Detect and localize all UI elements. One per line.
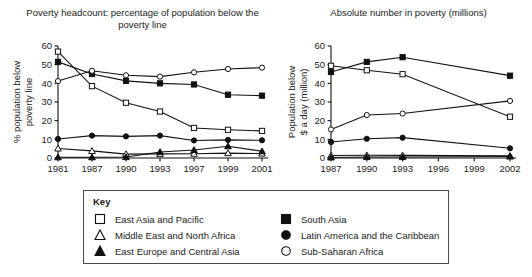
data-point-filled-circle — [400, 135, 405, 140]
legend-item-label: East Europe and Central Asia — [115, 246, 240, 257]
y-tick-label: 50 — [314, 59, 325, 70]
filled-square-icon — [279, 212, 301, 226]
y-tick-label: 10 — [314, 134, 325, 145]
series-line — [331, 138, 510, 149]
data-point-open-square — [259, 128, 264, 133]
data-point-filled-square — [400, 55, 405, 60]
x-tick-label: 1981 — [47, 163, 68, 174]
series-line — [331, 157, 510, 158]
data-point-open-square — [55, 49, 60, 54]
x-tick-label: 1990 — [356, 163, 377, 174]
data-point-filled-square — [364, 59, 369, 64]
legend-item: East Europe and Central Asia — [93, 243, 279, 259]
data-point-filled-circle — [507, 146, 512, 151]
data-point-open-circle — [400, 111, 405, 116]
y-tick-label: 10 — [41, 134, 52, 145]
legend-item-label: East Asia and Pacific — [115, 214, 204, 225]
chart-panel-absolute-number: Absolute number in poverty (millions) 01… — [285, 0, 532, 185]
data-point-open-square — [225, 127, 230, 132]
data-point-filled-square — [259, 93, 264, 98]
series-east-europe-and-central-asia — [55, 143, 266, 160]
data-point-open-square — [157, 109, 162, 114]
y-tick-label: 60 — [41, 40, 52, 51]
data-point-open-square — [191, 125, 196, 130]
legend-title: Key — [93, 196, 110, 207]
data-point-filled-square — [225, 92, 230, 97]
data-point-open-square — [328, 63, 333, 68]
legend-item: Latin America and the Caribbean — [279, 227, 449, 243]
legend-item-label: Latin America and the Caribbean — [301, 230, 439, 241]
open-circle-icon — [279, 244, 301, 258]
data-point-filled-square — [123, 78, 128, 83]
x-tick-label: 1999 — [217, 163, 238, 174]
y-tick-label: 30 — [314, 96, 325, 107]
data-point-filled-circle — [364, 136, 369, 141]
axes-group: 0102030405060198719901993199619992002 — [314, 40, 520, 173]
data-point-open-circle — [507, 98, 512, 103]
x-tick-label: 1987 — [320, 163, 341, 174]
y-tick-label: 20 — [314, 115, 325, 126]
data-point-filled-triangle — [225, 143, 232, 149]
filled-triangle-icon — [93, 244, 115, 258]
open-triangle-icon — [93, 228, 115, 242]
y-tick-label: 50 — [41, 59, 52, 70]
data-point-filled-square — [328, 69, 333, 74]
data-point-filled-circle — [89, 133, 94, 138]
data-point-filled-circle — [55, 136, 60, 141]
legend-item: East Asia and Pacific — [93, 211, 279, 227]
filled-circle-icon — [279, 228, 301, 242]
plot-area-absolute-number: 0102030405060198719901993199619992002Pop… — [285, 0, 532, 185]
y-axis-label: Population below — [286, 66, 297, 138]
y-tick-label: 40 — [314, 78, 325, 89]
plot-area-poverty-headcount: 0102030405060198119871990199319971999200… — [0, 0, 285, 185]
data-point-open-square — [400, 72, 405, 77]
data-point-filled-square — [191, 82, 196, 87]
x-tick-label: 1993 — [149, 163, 170, 174]
legend-item-label: Middle East and North Africa — [115, 230, 235, 241]
y-tick-label: 60 — [314, 40, 325, 51]
x-tick-label: 1997 — [183, 163, 204, 174]
y-axis-label: $ a day (million) — [298, 68, 309, 135]
x-tick-label: 1993 — [392, 163, 413, 174]
data-point-filled-circle — [123, 134, 128, 139]
x-tick-label: 1999 — [464, 163, 485, 174]
data-point-filled-circle — [157, 133, 162, 138]
series-sub-saharan-africa — [328, 98, 512, 132]
data-point-open-circle — [364, 112, 369, 117]
series-east-europe-and-central-asia — [328, 153, 514, 160]
series-line — [331, 66, 510, 117]
data-point-open-circle — [225, 66, 230, 71]
data-point-filled-circle — [259, 138, 264, 143]
series-south-asia — [328, 55, 512, 79]
data-point-open-circle — [191, 70, 196, 75]
open-square-icon — [93, 212, 115, 226]
data-point-filled-square — [55, 59, 60, 64]
chart-panel-poverty-headcount: Poverty headcount: percentage of populat… — [0, 0, 285, 185]
data-point-filled-square — [507, 73, 512, 78]
y-tick-label: 30 — [41, 96, 52, 107]
series-line — [331, 57, 510, 75]
data-point-open-circle — [123, 73, 128, 78]
data-point-filled-circle — [225, 137, 230, 142]
series-latin-america-and-the-caribbean — [328, 135, 512, 151]
x-tick-label: 1990 — [115, 163, 136, 174]
data-point-filled-circle — [191, 138, 196, 143]
charts-row: Poverty headcount: percentage of populat… — [0, 0, 532, 185]
data-point-open-square — [364, 68, 369, 73]
series-line — [58, 52, 262, 131]
data-point-open-square — [123, 100, 128, 105]
legend-item: South Asia — [279, 211, 449, 227]
y-axis-label: poverty line — [23, 78, 34, 127]
legend-item-label: Sub-Saharan Africa — [301, 246, 383, 257]
x-tick-label: 1996 — [428, 163, 449, 174]
y-axis-label: % population below — [11, 61, 22, 144]
data-point-open-circle — [328, 127, 333, 132]
legend-item-label: South Asia — [301, 214, 346, 225]
data-point-open-circle — [259, 65, 264, 70]
data-point-open-square — [89, 84, 94, 89]
series-line — [331, 155, 510, 156]
legend-column-left: East Asia and PacificMiddle East and Nor… — [93, 211, 279, 259]
x-tick-label: 2001 — [251, 163, 272, 174]
y-tick-label: 40 — [41, 78, 52, 89]
series-latin-america-and-the-caribbean — [55, 133, 264, 143]
